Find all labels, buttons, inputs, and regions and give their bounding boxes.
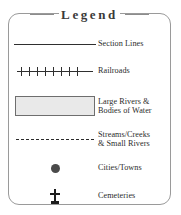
railroad-tie [45, 67, 46, 76]
cross-dagger-icon [49, 189, 61, 204]
railroad-line-icon [17, 66, 93, 77]
legend-entry-streams-creeks: Streams/Creeks & Small Rivers [12, 126, 169, 152]
legend-entry-large-rivers: Large Rivers & Bodies of Water [12, 92, 169, 120]
title-rule-right [125, 14, 149, 15]
legend-entry-cemeteries: Cemeteries [12, 185, 169, 207]
legend-entry-label: Cemeteries [98, 191, 169, 200]
cross-base [51, 201, 59, 203]
railroad-tie [21, 67, 22, 76]
cities-towns-symbol [12, 157, 98, 179]
legend-entry-label: Railroads [98, 66, 169, 75]
legend-entry-label: Section Lines [98, 39, 169, 48]
railroad-tie [29, 67, 30, 76]
railroads-symbol [12, 60, 98, 82]
filled-circle-icon [51, 164, 60, 173]
cross-arm [50, 193, 60, 195]
railroad-tie [77, 67, 78, 76]
legend-title: Legend [59, 8, 120, 21]
title-rule-left [30, 14, 54, 15]
water-body-rectangle-icon [15, 96, 95, 116]
dashed-line-icon [16, 139, 94, 140]
cemeteries-symbol [12, 185, 98, 207]
legend-entry-label: Large Rivers & Bodies of Water [98, 97, 169, 115]
legend-entry-section-lines: Section Lines [12, 35, 169, 53]
railroad-tie [37, 67, 38, 76]
railroad-tie [61, 67, 62, 76]
solid-line-icon [14, 44, 96, 45]
railroad-tie [53, 67, 54, 76]
railroad-tie [69, 67, 70, 76]
legend-entry-label: Cities/Towns [98, 163, 169, 172]
map-legend-panel: Legend Section Lines Railroads [0, 0, 181, 215]
streams-creeks-symbol [12, 128, 98, 150]
section-lines-symbol [12, 33, 98, 55]
legend-entry-railroads: Railroads [12, 62, 169, 80]
legend-title-group: Legend [8, 4, 171, 24]
legend-entry-cities-towns: Cities/Towns [12, 157, 169, 179]
legend-entry-label: Streams/Creeks & Small Rivers [98, 130, 169, 148]
large-rivers-symbol [12, 95, 98, 117]
